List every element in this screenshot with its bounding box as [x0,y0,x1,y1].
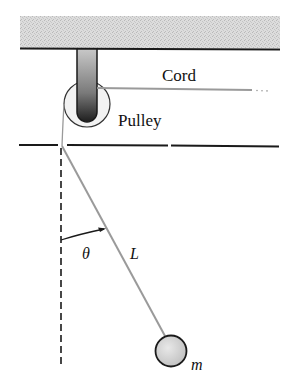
mass-label: m [191,356,203,373]
pendulum-string [62,146,165,336]
cord-horizontal [97,88,268,92]
pulley-label: Pulley [118,111,162,130]
length-label: L [129,245,139,262]
pendulum-diagram: Cord Pulley θ L m [0,0,284,388]
reference-line [19,145,279,147]
arrowhead-icon [98,228,106,233]
pendulum-bob [156,336,187,367]
ceiling [20,16,280,50]
pulley-support-rod [77,49,97,122]
angle-arc [61,228,106,241]
cord-label: Cord [162,66,197,85]
cord-left-side [62,104,64,146]
angle-theta-label: θ [82,245,90,262]
